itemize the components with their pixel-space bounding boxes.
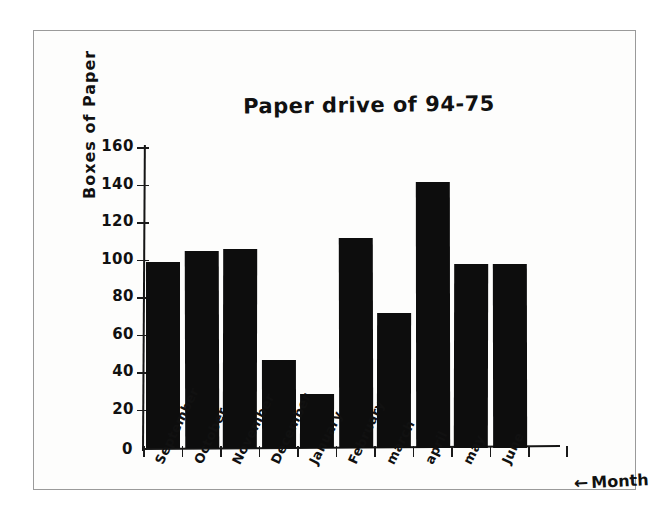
y-axis-tick-label: 100: [94, 252, 134, 267]
y-axis-tick-label: 160: [94, 139, 134, 154]
bar-may: [454, 264, 488, 448]
y-axis-tick-label: 140: [94, 177, 134, 192]
y-axis-tick: [137, 147, 149, 149]
x-axis-tick: [413, 446, 415, 457]
x-axis-tick: [259, 446, 261, 457]
x-axis-tick: [566, 446, 568, 457]
y-axis-tick-label: 20: [94, 402, 134, 417]
y-axis-tick: [137, 185, 149, 187]
x-axis-tick: [490, 446, 492, 457]
y-axis-tick: [137, 222, 149, 224]
y-axis-tick-label: 60: [94, 327, 134, 342]
x-axis-annotation: ←Month: [574, 469, 650, 493]
y-axis-zero-label: 0: [122, 440, 133, 458]
x-axis-tick: [336, 446, 338, 457]
bar-april: [415, 182, 449, 448]
x-axis-annotation-label: Month: [591, 470, 649, 492]
x-axis-tick: [451, 446, 453, 457]
chart-title: Paper drive of 94-75: [34, 89, 670, 121]
left-arrow-icon: ←: [574, 472, 589, 493]
y-axis-tick-label: 120: [94, 214, 134, 229]
x-axis-tick: [220, 446, 222, 457]
x-axis-tick: [528, 446, 530, 457]
y-axis-tick-label: 40: [94, 364, 134, 379]
plot-area: 0 20406080100120140160 SeptemberOctoberN…: [142, 148, 542, 448]
x-axis-tick: [297, 446, 299, 457]
x-axis-tick: [143, 446, 145, 457]
y-axis-tick: [137, 260, 149, 262]
x-axis-tick: [374, 446, 376, 457]
bar-june: [492, 264, 526, 448]
x-axis-tick: [182, 446, 184, 457]
y-axis-tick-label: 80: [94, 289, 134, 304]
paper-sheet: Paper drive of 94-75 Boxes of Paper 0 20…: [33, 30, 636, 490]
screenshot-root: Paper drive of 94-75 Boxes of Paper 0 20…: [0, 0, 670, 517]
